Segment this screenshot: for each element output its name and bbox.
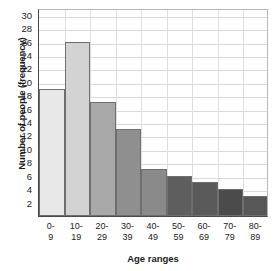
- y-tick-label: 16: [21, 105, 32, 115]
- x-tick-label-line: 40-: [140, 221, 166, 232]
- x-tick-label-line: 69: [191, 232, 217, 243]
- x-tick-label-line: 39: [115, 232, 141, 243]
- x-tick-label-line: 80-: [242, 221, 268, 232]
- x-tick-label-line: 0-: [38, 221, 64, 232]
- x-tick-label-line: 89: [242, 232, 268, 243]
- bar-30-39: [116, 129, 141, 216]
- y-tick-label: 20: [21, 78, 32, 88]
- bar-40-49: [141, 169, 167, 216]
- y-tick-label: 18: [21, 91, 32, 101]
- y-tick-label: 24: [21, 51, 32, 61]
- x-tick-label-80-89: 80-89: [242, 221, 268, 243]
- x-tick-label-50-59: 50-59: [166, 221, 192, 243]
- y-tick-label: 22: [21, 64, 32, 74]
- bars-layer: [39, 10, 267, 216]
- x-tick-label-line: 79: [217, 232, 243, 243]
- x-tick-label-0-9: 0-9: [38, 221, 64, 243]
- x-tick-label-line: 9: [38, 232, 64, 243]
- x-tick-label-20-29: 20-29: [89, 221, 115, 243]
- bar-80-89: [243, 196, 268, 216]
- x-tick-label-line: 59: [166, 232, 192, 243]
- y-tick-label: 12: [21, 131, 32, 141]
- x-tick-label-line: 70-: [217, 221, 243, 232]
- x-tick-label-line: 19: [64, 232, 90, 243]
- plot-area: [38, 9, 268, 217]
- bar-50-59: [167, 176, 192, 216]
- x-tick-label-line: 20-: [89, 221, 115, 232]
- bar-0-9: [39, 89, 65, 216]
- x-tick-label-10-19: 10-19: [64, 221, 90, 243]
- x-tick-label-60-69: 60-69: [191, 221, 217, 243]
- x-tick-label-line: 10-: [64, 221, 90, 232]
- x-tick-label-line: 49: [140, 232, 166, 243]
- y-tick-label: 10: [21, 145, 32, 155]
- y-tick-label: 2: [27, 199, 32, 209]
- y-tick-label: 26: [21, 38, 32, 48]
- bar-10-19: [65, 42, 90, 216]
- x-tick-label-30-39: 30-39: [115, 221, 141, 243]
- x-axis-title: Age ranges: [38, 253, 268, 264]
- y-axis-tick-labels: 24681012141618202224262830: [0, 9, 34, 217]
- x-tick-label-40-49: 40-49: [140, 221, 166, 243]
- y-tick-label: 6: [27, 172, 32, 182]
- histogram-chart: Number of people (frequency) 24681012141…: [0, 0, 274, 271]
- x-axis-tick-labels: 0-910-1920-2930-3940-4950-5960-6970-7980…: [38, 221, 268, 251]
- x-tick-label-line: 60-: [191, 221, 217, 232]
- x-tick-label-line: 30-: [115, 221, 141, 232]
- bar-70-79: [218, 189, 243, 216]
- bar-60-69: [192, 182, 218, 216]
- y-tick-label: 14: [21, 118, 32, 128]
- x-tick-label-70-79: 70-79: [217, 221, 243, 243]
- x-tick-label-line: 29: [89, 232, 115, 243]
- y-tick-label: 28: [21, 24, 32, 34]
- y-tick-label: 4: [27, 185, 32, 195]
- y-tick-label: 8: [27, 158, 32, 168]
- x-tick-label-line: 50-: [166, 221, 192, 232]
- bar-20-29: [90, 102, 116, 216]
- y-tick-label: 30: [21, 11, 32, 21]
